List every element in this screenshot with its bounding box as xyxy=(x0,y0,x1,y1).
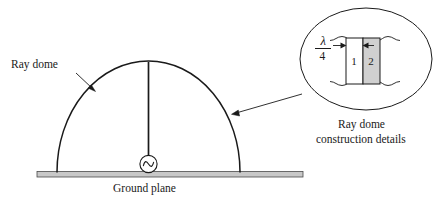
ground-plane-bar xyxy=(37,172,303,178)
callout-leader-arrowhead xyxy=(232,110,240,116)
detail-caption-line-1: Ray dome xyxy=(338,118,385,131)
lambda-symbol: λ xyxy=(320,34,327,48)
ground-plane-rect xyxy=(37,172,303,178)
ray-dome-label-group: Ray dome xyxy=(11,58,96,92)
detail-magnifier: 1 2 λ 4 xyxy=(300,8,432,110)
ray-dome-label: Ray dome xyxy=(11,58,58,71)
layer-2-number: 2 xyxy=(368,55,374,67)
fraction-denominator: 4 xyxy=(320,50,326,62)
diagram-canvas: Ray dome Ground plane xyxy=(0,0,446,207)
detail-caption-line-2: construction details xyxy=(316,133,406,145)
radome-antenna-diagram: Ray dome Ground plane xyxy=(0,0,446,207)
detail-caption: Ray dome construction details xyxy=(316,118,406,145)
callout-leader-line xyxy=(236,94,302,113)
ground-plane-label: Ground plane xyxy=(113,182,176,195)
detail-callout-leader xyxy=(232,94,303,116)
ac-source-symbol xyxy=(140,155,157,172)
layer-1-number: 1 xyxy=(351,55,357,67)
